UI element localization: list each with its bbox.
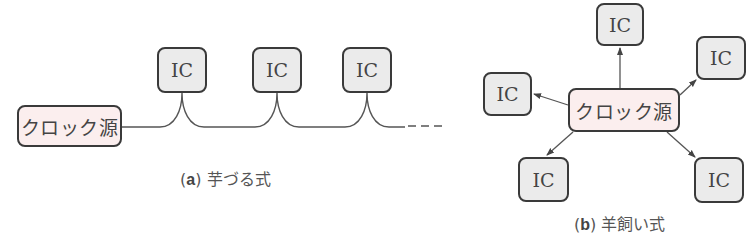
- ic-box-b-lower-right: IC: [694, 157, 744, 203]
- daisy-chain-wire: [122, 93, 446, 127]
- ic-label: IC: [708, 169, 730, 191]
- caption-b: (b) 羊飼い式: [574, 211, 665, 235]
- clock-source-box-b: クロック源: [568, 88, 680, 132]
- ic-box-a2: IC: [252, 47, 302, 93]
- ic-box-b-upper-right: IC: [696, 36, 746, 80]
- clock-source-label: クロック源: [575, 97, 673, 124]
- clock-source-box-a: クロック源: [17, 105, 122, 147]
- ic-box-a3: IC: [342, 47, 392, 93]
- ic-label: IC: [266, 59, 288, 81]
- ic-label: IC: [609, 14, 631, 36]
- ic-label: IC: [532, 169, 554, 191]
- ic-label: IC: [171, 59, 193, 81]
- ic-label: IC: [496, 83, 518, 105]
- ic-box-a1: IC: [157, 47, 207, 93]
- ic-label: IC: [710, 47, 732, 69]
- ic-label: IC: [356, 59, 378, 81]
- ic-box-b-lower-left: IC: [518, 157, 569, 202]
- ic-box-b-left: IC: [483, 72, 532, 116]
- caption-a: (a) 芋づる式: [180, 166, 271, 190]
- ic-box-b-top: IC: [596, 3, 644, 46]
- clock-source-label: クロック源: [21, 113, 119, 140]
